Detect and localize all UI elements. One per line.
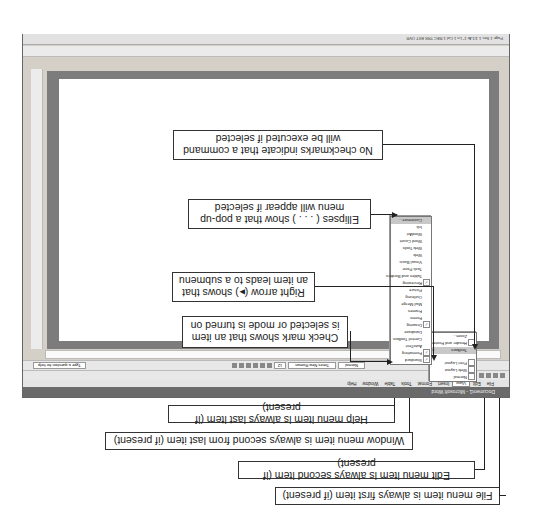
help-search-box[interactable]: Type a question for help: [33, 362, 86, 369]
toolbar-item[interactable]: Tables and Borders: [391, 273, 431, 280]
callout-no-checkmarks-text: No checkmarks indicate that a command wi…: [180, 133, 376, 157]
save-icon[interactable]: [486, 373, 491, 378]
toolbar-item[interactable]: Picture: [391, 287, 431, 294]
menu-help[interactable]: Help: [344, 380, 359, 387]
menu-file[interactable]: File: [484, 380, 497, 387]
toolbar-item[interactable]: WordArt: [391, 231, 431, 238]
menu-tools[interactable]: Tools: [398, 380, 415, 387]
align-center-icon[interactable]: [239, 363, 244, 368]
callout-window-text: Window menu item is always second from l…: [114, 435, 405, 447]
check-icon: ✓: [423, 356, 430, 363]
arrow-head-ellipses: [392, 212, 398, 218]
toolbar-item[interactable]: ✓Drawing: [391, 322, 431, 329]
align-right-icon[interactable]: [232, 363, 237, 368]
title-bar: Document1 - Microsoft Word: [23, 387, 509, 397]
leader-right-h: [315, 286, 434, 287]
toolbar-item[interactable]: Forms: [391, 315, 431, 322]
leader-check-h: [350, 361, 389, 362]
check-icon: ✓: [423, 349, 430, 356]
callout-file-menu: File menu item is always first item (if …: [275, 487, 500, 505]
view-menu-web-layout[interactable]: Web Layout: [430, 367, 476, 374]
status-bar: Page 1 Sec 1 1/1 At 1" Ln 1 Col 1 REC TR…: [23, 34, 509, 45]
callout-no-checkmarks: No checkmarks indicate that a command wi…: [173, 130, 383, 160]
toolbar-item[interactable]: Visual Basic: [391, 259, 431, 266]
size-box[interactable]: 12: [274, 362, 286, 369]
menu-window[interactable]: Window: [359, 380, 381, 387]
toolbar-item[interactable]: Web: [391, 252, 431, 259]
leader-right-v: [433, 287, 434, 355]
web-layout-icon: [468, 366, 475, 373]
callout-checkmark: Check mark shows that an item is selecte…: [182, 316, 348, 348]
arrow-head-right: [431, 355, 437, 361]
toolbar-item[interactable]: Task Pane: [391, 266, 431, 273]
callout-help-menu: Help menu item is always last item (if p…: [168, 405, 395, 423]
normal-view-icon: [468, 373, 475, 380]
view-menu-print-layout[interactable]: Print Layout: [430, 360, 476, 367]
underline-icon[interactable]: [253, 363, 258, 368]
leader-check-v: [350, 331, 351, 361]
callout-edit-menu: Edit menu item is always second item (if…: [238, 461, 475, 479]
toolbar-item[interactable]: AutoText: [391, 343, 431, 350]
leader-file-h: [500, 495, 506, 496]
view-menu-zoom[interactable]: Zoom...: [430, 333, 476, 340]
toolbar-item[interactable]: ✓Standard: [391, 357, 431, 364]
rotated-figure: File menu item is always first item (if …: [0, 0, 537, 519]
toolbar-item[interactable]: Control Toolbox: [391, 336, 431, 343]
toolbar-customize[interactable]: Customize...: [391, 217, 431, 224]
toolbar-item[interactable]: Mail Merge: [391, 301, 431, 308]
print-layout-icon: [468, 359, 475, 366]
view-menu-header-footer[interactable]: Header and Footer: [430, 340, 476, 347]
check-icon: ✓: [423, 321, 430, 328]
toolbar-item[interactable]: Ink: [391, 224, 431, 231]
callout-right-arrow: Right arrow (▸) shows that an item leads…: [172, 272, 315, 302]
callout-window-menu: Window menu item is always second from l…: [105, 432, 413, 450]
print-icon[interactable]: [479, 373, 484, 378]
toolbar-item[interactable]: Web Tools: [391, 245, 431, 252]
font-box[interactable]: Times New Roman: [288, 362, 336, 369]
window-title: Document1 - Microsoft Word: [431, 389, 495, 395]
callout-file-text: File menu item is always first item (if …: [282, 490, 492, 502]
new-icon[interactable]: [500, 373, 505, 378]
leader-file: [499, 393, 500, 496]
toolbar-item[interactable]: Database: [391, 329, 431, 336]
callout-edit-text: Edit menu item is always second item (if…: [245, 458, 468, 482]
callout-ellipses-text: Ellipses ( . . . ) show that a pop-up me…: [195, 202, 364, 226]
toolbar-item[interactable]: Word Count: [391, 238, 431, 245]
leader-edit-h: [475, 469, 485, 470]
toolbars-submenu: ✓Standard ✓Formatting AutoText Control T…: [390, 216, 432, 365]
callout-ellipses: Ellipses ( . . . ) show that a pop-up me…: [188, 199, 371, 229]
arrow-head-nocheck: [472, 344, 478, 350]
leader-nocheck-h: [383, 144, 475, 145]
open-icon[interactable]: [493, 373, 498, 378]
leader-window: [409, 393, 410, 433]
callout-checkmark-text: Check mark shows that an item is selecte…: [189, 320, 341, 344]
view-menu-toolbars[interactable]: Toolbars▸: [430, 347, 476, 354]
view-menu-normal[interactable]: Normal: [430, 374, 476, 381]
align-left-icon[interactable]: [246, 363, 251, 368]
callout-right-arrow-text: Right arrow (▸) shows that an item leads…: [179, 275, 308, 299]
drawing-toolbar: [23, 46, 509, 57]
vertical-scrollbar[interactable]: [31, 69, 43, 349]
toolbar-item[interactable]: Outlining: [391, 294, 431, 301]
toolbar-item[interactable]: ✓Formatting: [391, 350, 431, 357]
toolbar-item[interactable]: Frames: [391, 308, 431, 315]
menu-table[interactable]: Table: [381, 380, 398, 387]
style-box[interactable]: Normal: [338, 362, 365, 369]
arrow-head-check: [387, 359, 393, 365]
callout-help-text: Help menu item is always last item (if p…: [175, 402, 388, 426]
leader-nocheck-v: [474, 144, 475, 344]
italic-icon[interactable]: [260, 363, 265, 368]
bold-icon[interactable]: [267, 363, 272, 368]
leader-edit: [484, 393, 485, 470]
check-icon: ✓: [423, 279, 430, 286]
status-text: Page 1 Sec 1 1/1 At 1" Ln 1 Col 1 REC TR…: [406, 36, 503, 41]
